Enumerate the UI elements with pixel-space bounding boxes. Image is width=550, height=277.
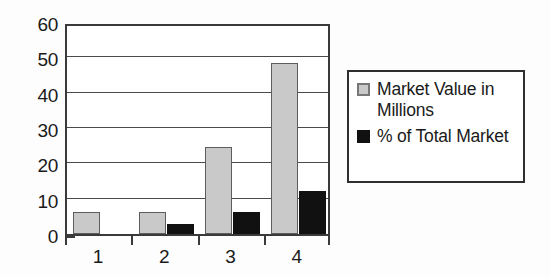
x-axis-labels: 1234 (65, 246, 330, 274)
legend-label: Market Value in Millions (377, 79, 517, 122)
y-axis-tick-label: 20 (18, 156, 58, 175)
x-axis-tick-mark (264, 236, 266, 245)
chart-legend: Market Value in Millions% of Total Marke… (347, 70, 525, 183)
bar-4-series-1 (299, 191, 326, 234)
bar-1-series-0 (73, 212, 100, 234)
bar-group (133, 26, 199, 234)
y-axis-tick-label: 0 (18, 227, 58, 246)
bar-group (266, 26, 332, 234)
legend-label: % of Total Market (377, 126, 508, 147)
y-axis-tick-label: 50 (18, 50, 58, 69)
bar-3-series-0 (205, 147, 232, 234)
legend-entry: Market Value in Millions (357, 79, 517, 122)
x-axis-tick-mark (198, 236, 200, 245)
x-axis-tick-label: 2 (159, 246, 170, 269)
legend-entry: % of Total Market (357, 126, 517, 147)
plot-area (65, 24, 330, 236)
y-axis: 0102030405060 (10, 0, 58, 277)
chart-screenshot: 0102030405060 1234 Market Value in Milli… (0, 0, 550, 277)
bar-group (67, 26, 133, 234)
bar-4-series-0 (271, 63, 298, 234)
bar-2-series-1 (167, 224, 194, 234)
y-axis-tick-label: 40 (18, 85, 58, 104)
x-axis-tick-label: 4 (292, 246, 303, 269)
bar-3-series-1 (233, 212, 260, 234)
x-axis-tick-mark (65, 236, 67, 245)
x-axis-ticks (65, 236, 330, 246)
x-axis-tick-mark (131, 236, 133, 245)
y-axis-tick-label: 60 (18, 15, 58, 34)
bar-2-series-0 (139, 212, 166, 234)
x-axis-tick-label: 1 (93, 246, 104, 269)
legend-swatch-gray-icon (357, 83, 370, 96)
x-axis-tick-label: 3 (225, 246, 236, 269)
y-axis-tick-label: 30 (18, 121, 58, 140)
x-axis-tick-mark (328, 236, 330, 245)
bar-group (200, 26, 266, 234)
legend-swatch-black-icon (357, 130, 370, 143)
y-axis-tick-label: 10 (18, 191, 58, 210)
